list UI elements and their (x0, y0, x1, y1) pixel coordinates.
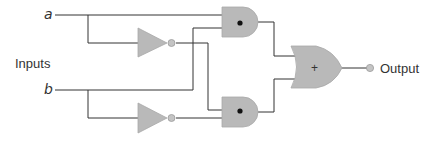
input-a-label: a (44, 6, 53, 22)
wire-and1-to-or (258, 22, 296, 56)
not-gate-1 (138, 28, 175, 57)
and-gate-1 (222, 7, 258, 37)
not-gate-1-body (138, 28, 167, 57)
wire-a-to-not1 (88, 15, 139, 43)
wire-b-to-not2 (88, 90, 139, 118)
not-gate-1-bubble (168, 40, 175, 47)
or-symbol: + (311, 61, 318, 75)
output-label: Output (380, 61, 419, 76)
input-b-label: b (44, 81, 53, 97)
and-symbol-dot-2 (237, 108, 242, 113)
not-gate-2-bubble (168, 115, 175, 122)
output-terminal (366, 64, 373, 71)
and-symbol-dot-1 (237, 20, 242, 25)
or-gate: + (291, 46, 342, 88)
and-gate-2 (222, 97, 258, 127)
wire-and2-to-or (258, 79, 296, 112)
inputs-label: Inputs (15, 56, 51, 71)
not-gate-2 (138, 103, 175, 133)
logic-circuit-diagram: a Inputs b (0, 0, 436, 141)
not-gate-2-body (138, 103, 167, 133)
wire-not1-to-and2 (176, 43, 222, 110)
